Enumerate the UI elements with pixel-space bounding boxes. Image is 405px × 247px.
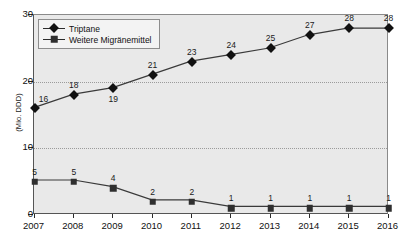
- legend-item[interactable]: Triptane: [43, 23, 152, 34]
- y-tick-label: 30: [11, 9, 33, 19]
- y-tick-label: 0: [11, 209, 33, 219]
- legend-diamond-icon: [43, 23, 65, 34]
- data-point-label: 21: [148, 61, 157, 70]
- chart-legend: TriptaneWeitere Migränemittel: [38, 19, 160, 49]
- data-point-label: 1: [347, 194, 352, 203]
- legend-item-label: Weitere Migränemittel: [69, 35, 152, 45]
- data-point-label: 18: [69, 81, 78, 90]
- data-point-label: 2: [189, 188, 194, 197]
- x-tick-label: 2007: [23, 221, 44, 231]
- data-point-label: 1: [268, 194, 273, 203]
- data-point-label: 28: [344, 14, 353, 23]
- x-tick-label: 2011: [181, 221, 201, 231]
- data-point-marker: [110, 185, 117, 192]
- y-tick-label: 10: [11, 142, 33, 152]
- legend-square-icon: [43, 34, 65, 45]
- legend-key-marker: [51, 36, 58, 43]
- x-tick-mark: [230, 214, 231, 218]
- data-point-label: 5: [32, 168, 37, 177]
- x-tick-mark: [34, 214, 35, 218]
- y-axis-ticks: 0102030: [0, 0, 33, 247]
- x-tick-mark: [191, 214, 192, 218]
- legend-item[interactable]: Weitere Migränemittel: [43, 34, 152, 45]
- data-point-marker: [267, 205, 274, 212]
- data-point-marker: [307, 205, 314, 212]
- x-tick-mark: [73, 214, 74, 218]
- x-tick-mark: [388, 214, 389, 218]
- data-point-label: 23: [187, 48, 196, 57]
- x-tick-label: 2009: [102, 221, 123, 231]
- data-point-label: 28: [384, 14, 393, 23]
- data-point-label: 27: [305, 21, 314, 30]
- data-point-marker: [71, 178, 78, 185]
- data-point-label: 1: [307, 194, 312, 203]
- x-tick-label: 2013: [259, 221, 280, 231]
- data-point-label: 24: [226, 41, 235, 50]
- data-point-marker: [346, 205, 353, 212]
- data-point-label: 1: [386, 194, 391, 203]
- data-point-label: 5: [71, 168, 76, 177]
- x-tick-mark: [112, 214, 113, 218]
- legend-key-marker: [49, 23, 59, 33]
- data-point-marker: [149, 198, 156, 205]
- x-tick-label: 2014: [298, 221, 319, 231]
- data-point-marker: [31, 178, 38, 185]
- data-point-label: 16: [39, 95, 48, 104]
- y-tick-label: 20: [11, 76, 33, 86]
- data-point-label: 25: [266, 34, 275, 43]
- x-tick-mark: [348, 214, 349, 218]
- chart-container: (Mio. DDD) 0102030 161819212324252728285…: [0, 0, 405, 247]
- x-tick-label: 2015: [338, 221, 359, 231]
- data-point-label: 1: [229, 194, 234, 203]
- x-tick-label: 2010: [141, 221, 162, 231]
- x-tick-label: 2016: [377, 221, 398, 231]
- x-tick-mark: [270, 214, 271, 218]
- x-tick-label: 2012: [220, 221, 241, 231]
- x-tick-mark: [152, 214, 153, 218]
- data-point-marker: [385, 205, 392, 212]
- legend-item-label: Triptane: [69, 24, 100, 34]
- data-point-marker: [228, 205, 235, 212]
- data-point-label: 19: [108, 95, 117, 104]
- data-point-label: 2: [150, 188, 155, 197]
- x-tick-mark: [309, 214, 310, 218]
- series-line: [34, 180, 386, 206]
- data-point-marker: [189, 198, 196, 205]
- x-tick-label: 2008: [62, 221, 83, 231]
- data-point-label: 4: [111, 174, 116, 183]
